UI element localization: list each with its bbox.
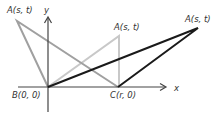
label-y-axis: y — [43, 5, 50, 15]
triangle-diagram: A(s, t) y A(s, t) A(s, t) x B(0, 0) C(r,… — [0, 0, 217, 119]
label-x-axis: x — [173, 83, 180, 93]
label-a-middle: A(s, t) — [113, 22, 140, 32]
triangle-right — [48, 28, 198, 87]
y-axis — [45, 17, 52, 112]
triangle-middle — [48, 36, 119, 87]
label-a-left: A(s, t) — [6, 5, 33, 15]
label-c: C(r, 0) — [110, 90, 136, 100]
label-a-right: A(s, t) — [184, 14, 211, 24]
label-b: B(0, 0) — [12, 90, 41, 100]
triangle-left — [17, 21, 118, 87]
